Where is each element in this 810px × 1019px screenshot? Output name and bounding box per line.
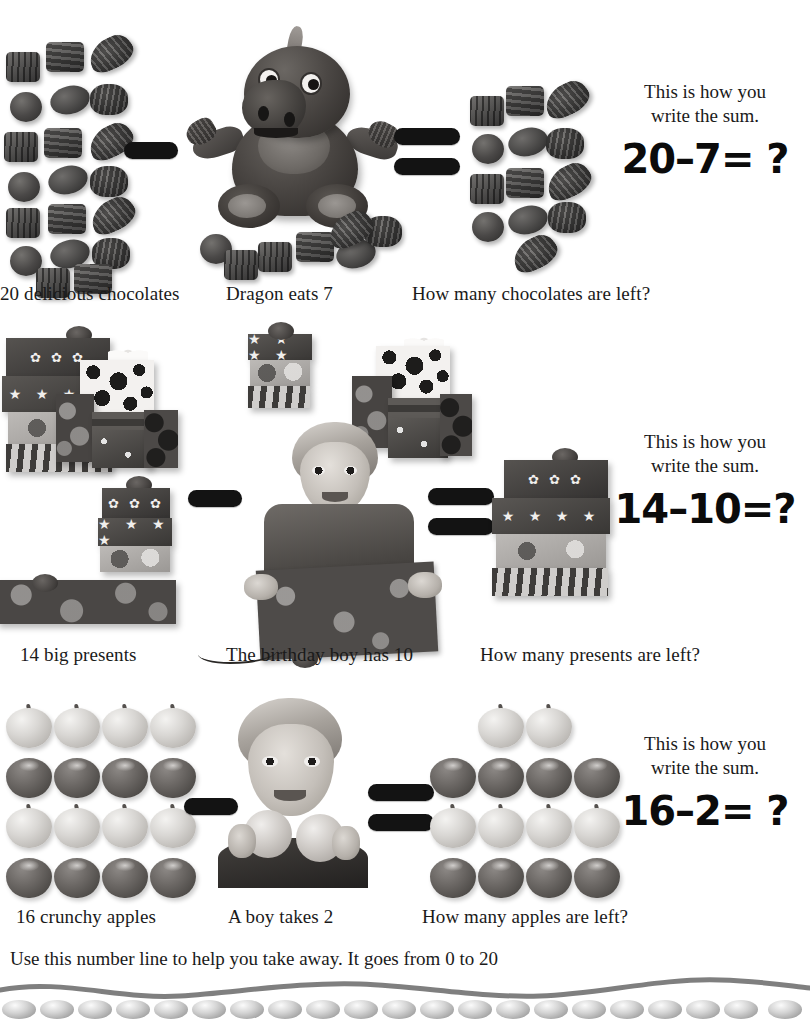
- caption-middle-row2: The birthday boy has 10: [226, 644, 413, 666]
- sum-expression-row3: 16–2= ?: [600, 788, 810, 834]
- minus-bar: [124, 142, 178, 159]
- boy-eye-left: [312, 466, 325, 475]
- chocolate-piece: [10, 92, 42, 122]
- apple: [478, 754, 524, 798]
- sum-expression-row1: 20–7= ?: [600, 136, 810, 182]
- gift-box-flat: [0, 580, 176, 624]
- number-line-bead: [78, 1000, 112, 1019]
- problem-row-apples: This is how you write the sum. 16–2= ? 1…: [0, 672, 810, 934]
- birthday-boy-photo: [248, 422, 438, 622]
- chocolate-piece: [542, 158, 597, 206]
- apple: [430, 854, 476, 898]
- equals-bar-top: [368, 784, 434, 801]
- gift-bow: [32, 574, 58, 592]
- dragon-nostril-left: [258, 106, 269, 121]
- eaten-chocolate: [224, 250, 258, 280]
- number-line-bead: [648, 1000, 682, 1019]
- apple: [478, 804, 524, 848]
- number-line-bead: [534, 1000, 568, 1019]
- sum-lead-line1: This is how you: [600, 80, 810, 104]
- sum-block-row1: This is how you write the sum. 20–7= ?: [600, 80, 810, 182]
- number-line-bead: [572, 1000, 606, 1019]
- dragon-eye-right: [300, 72, 322, 95]
- apple: [6, 804, 52, 848]
- equals-bar-bottom: [428, 518, 494, 535]
- problem-row-chocolates: This is how you write the sum. 20–7= ? 2…: [0, 0, 810, 312]
- apple: [574, 854, 620, 898]
- apple: [430, 754, 476, 798]
- chocolate-piece: [47, 82, 93, 119]
- dragon-mouth: [254, 128, 298, 138]
- apple: [54, 804, 100, 848]
- sum-expression-row2: 14–10=?: [600, 486, 810, 532]
- chocolate-piece: [84, 30, 139, 78]
- caption-middle-row3: A boy takes 2: [228, 906, 333, 928]
- number-line-bead: [496, 1000, 530, 1019]
- apple: [430, 804, 476, 848]
- gift-box: [56, 394, 94, 462]
- chocolate-piece: [546, 128, 584, 159]
- apple: [102, 754, 148, 798]
- boy-hand-left: [244, 574, 278, 600]
- sum-lead-line2: write the sum.: [600, 756, 810, 780]
- apple: [6, 704, 52, 748]
- number-line-bead: [40, 1000, 74, 1019]
- gift-box: [250, 360, 310, 386]
- chocolate-piece: [472, 134, 504, 164]
- apple: [526, 704, 572, 748]
- boy-hand-left: [228, 824, 256, 858]
- caption-left-row3: 16 crunchy apples: [16, 906, 156, 928]
- chocolate-piece: [472, 212, 504, 242]
- sum-lead-line1: This is how you: [600, 732, 810, 756]
- sum-block-row3: This is how you write the sum. 16–2= ?: [600, 732, 810, 834]
- chocolate-piece: [505, 202, 551, 239]
- sum-block-row2: This is how you write the sum. 14–10=?: [600, 430, 810, 532]
- boy-eye-left: [262, 756, 278, 767]
- gift-box: [492, 498, 610, 534]
- number-line-bead: [420, 1000, 454, 1019]
- chocolate-piece: [46, 42, 84, 72]
- worksheet-page: This is how you write the sum. 20–7= ? 2…: [0, 0, 810, 1019]
- chocolate-piece: [6, 208, 40, 238]
- minus-operator-row1: [124, 142, 178, 159]
- gift-box: [92, 430, 152, 468]
- chocolate-piece: [86, 192, 141, 240]
- number-line-bead: [344, 1000, 378, 1019]
- sum-lead-line2: write the sum.: [600, 104, 810, 128]
- eaten-chocolate: [258, 242, 292, 272]
- number-line-bead: [230, 1000, 264, 1019]
- apple: [102, 804, 148, 848]
- caption-left-row2: 14 big presents: [20, 644, 137, 666]
- equals-operator-row2: [428, 488, 494, 535]
- gift-box: [504, 460, 608, 498]
- chocolate-piece: [506, 168, 544, 198]
- boy-eye-right: [304, 756, 320, 767]
- number-line-bead: [686, 1000, 720, 1019]
- gift-box: [102, 488, 170, 518]
- apple: [526, 804, 572, 848]
- number-line-beads: [0, 1000, 810, 1019]
- apple: [526, 854, 572, 898]
- apple: [102, 854, 148, 898]
- chocolate-piece: [44, 128, 82, 158]
- chocolate-piece: [548, 202, 586, 233]
- gift-box: [492, 568, 608, 596]
- chocolate-piece: [90, 84, 128, 115]
- apple: [478, 854, 524, 898]
- chocolate-piece: [4, 132, 38, 162]
- boy-hand-right: [408, 572, 442, 598]
- gift-box: [496, 534, 606, 568]
- apple: [526, 754, 572, 798]
- equals-bar-top: [428, 488, 494, 505]
- caption-right-row3: How many apples are left?: [422, 906, 628, 928]
- apple: [54, 854, 100, 898]
- caption-middle-row1: Dragon eats 7: [226, 283, 333, 305]
- number-line-bead: [192, 1000, 226, 1019]
- gift-box: [98, 518, 172, 546]
- chocolate-piece: [45, 162, 91, 199]
- number-line-instruction: Use this number line to help you take aw…: [10, 948, 498, 970]
- equals-bar-bottom: [368, 814, 434, 831]
- number-line-bead: [610, 1000, 644, 1019]
- apple: [150, 704, 196, 748]
- number-line-bead: [2, 1000, 36, 1019]
